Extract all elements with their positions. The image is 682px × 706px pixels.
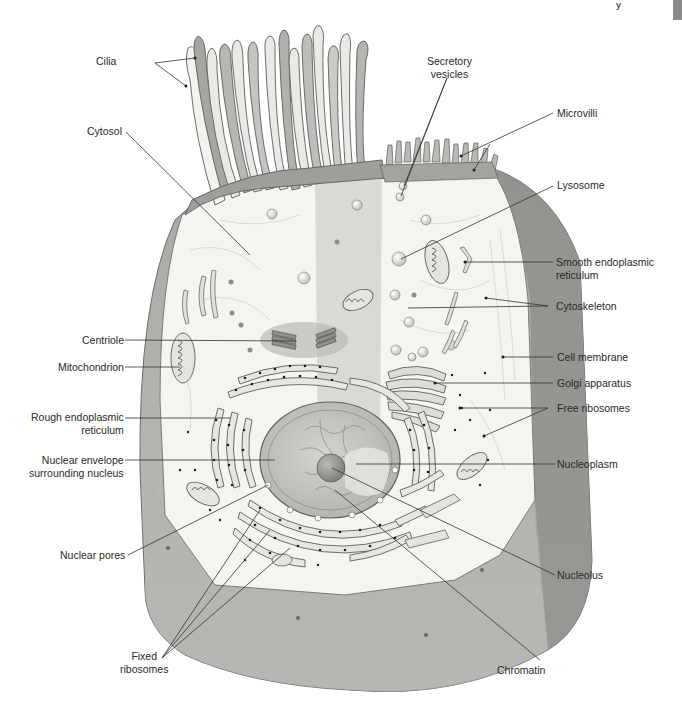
label-cytoskeleton: Cytoskeleton bbox=[556, 300, 617, 313]
label-golgi-apparatus: Golgi apparatus bbox=[557, 377, 631, 390]
label-nucleolus: Nucleolus bbox=[557, 569, 603, 582]
label-fixed-ribosomes: Fixed ribosomes bbox=[120, 650, 168, 675]
label-nucleoplasm: Nucleoplasm bbox=[557, 458, 618, 471]
label-cell-membrane: Cell membrane bbox=[557, 351, 628, 364]
label-mitochondrion: Mitochondrion bbox=[58, 361, 124, 374]
label-nuclear-envelope: Nuclear envelope surrounding nucleus bbox=[29, 454, 124, 479]
centrosome bbox=[260, 322, 348, 358]
label-rough-endoplasmic-reticulum: Rough endoplasmic reticulum bbox=[31, 411, 124, 436]
label-cilia: Cilia bbox=[96, 55, 116, 68]
label-centriole: Centriole bbox=[82, 334, 124, 347]
label-secretory-vesicles: Secretory vesicles bbox=[427, 55, 472, 80]
label-nuclear-pores: Nuclear pores bbox=[60, 549, 125, 562]
lysosome bbox=[392, 252, 406, 266]
label-chromatin: Chromatin bbox=[497, 664, 545, 677]
label-microvilli: Microvilli bbox=[557, 107, 597, 120]
label-smooth-endoplasmic-reticulum: Smooth endoplasmic reticulum bbox=[556, 256, 654, 281]
label-cytosol: Cytosol bbox=[87, 125, 122, 138]
label-lysosome: Lysosome bbox=[557, 179, 604, 192]
label-free-ribosomes: Free ribosomes bbox=[557, 402, 630, 415]
